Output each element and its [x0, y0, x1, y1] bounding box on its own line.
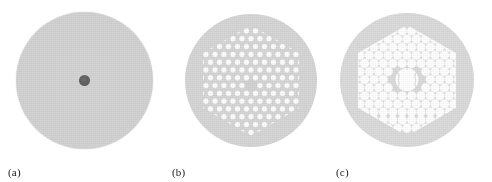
air-hole-lattice-c [340, 13, 474, 147]
panel-label-a: (a) [8, 167, 21, 178]
fiber-core-a [79, 75, 90, 86]
panel-b: (b) [164, 0, 328, 182]
panel-a: (a) [0, 0, 164, 182]
fiber-cross-section-c [340, 13, 474, 147]
figure-panels-row: (a) [0, 0, 492, 182]
air-hole-lattice-b [185, 14, 317, 147]
panel-label-c: (c) [336, 167, 349, 178]
fiber-cross-section-b [185, 14, 317, 147]
panel-label-b: (b) [172, 167, 185, 178]
panel-c: (c) [328, 0, 492, 182]
fiber-cross-section-a [16, 12, 153, 149]
